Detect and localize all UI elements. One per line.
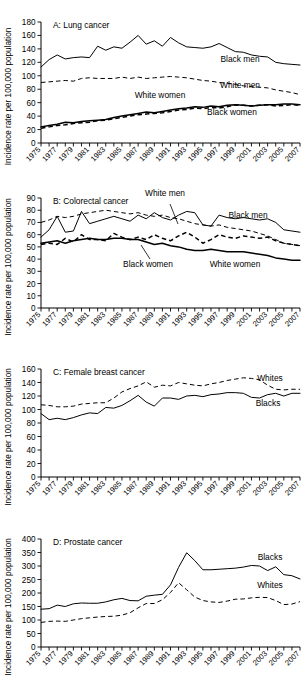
x-tick-label: 1975 [24,145,42,163]
x-tick-label: 1977 [40,649,58,667]
x-tick-label: 1991 [154,145,172,163]
leader-line [170,204,178,224]
incidence-rate-figure: 0204060801001201401601801975197719791981… [0,0,307,685]
x-tick-label: 2007 [283,310,301,328]
x-tick-label: 1979 [56,145,74,163]
x-tick-label: 1985 [105,479,123,497]
x-tick-label: 1993 [170,479,188,497]
x-tick-label: 1995 [186,310,204,328]
x-tick-label: 2001 [235,649,253,667]
x-tick-label: 1999 [218,145,236,163]
x-tick-label: 1997 [202,310,220,328]
x-tick-label: 1995 [186,479,204,497]
x-tick-label: 2007 [283,145,301,163]
y-axis-label: Incidence rate per 100,000 population [4,198,13,336]
x-tick-label: 2003 [251,479,269,497]
x-tick-label: 2005 [267,145,285,163]
series-label-white-men: White men [145,188,185,198]
y-tick-label: 140 [22,45,36,54]
y-tick-label: 80 [26,85,36,94]
y-tick-label: 400 [22,535,36,544]
x-tick-label: 1997 [202,649,220,667]
chart-a: 0204060801001201401601801975197719791981… [0,0,307,175]
series-label-white-women: White women [135,90,186,100]
y-tick-label: 160 [22,31,36,40]
y-tick-label: 40 [26,446,36,455]
x-tick-label: 2003 [251,310,269,328]
x-tick-label: 1979 [56,479,74,497]
x-tick-label: 2005 [267,479,285,497]
x-tick-label: 2005 [267,310,285,328]
y-tick-label: 140 [22,379,36,388]
series-label-black-men: Black men [228,210,267,220]
panel-lung-cancer: 0204060801001201401601801975197719791981… [0,0,307,175]
x-tick-label: 2005 [267,649,285,667]
y-tick-label: 250 [22,576,36,585]
y-tick-label: 40 [26,112,36,121]
y-tick-label: 180 [22,18,36,27]
series-line-white-women [41,238,300,260]
y-tick-label: 20 [26,460,36,469]
series-label-whites: Whites [257,580,283,590]
x-tick-label: 1987 [121,145,139,163]
y-tick-label: 100 [22,616,36,625]
x-tick-label: 2001 [235,145,253,163]
x-tick-label: 2003 [251,649,269,667]
x-tick-label: 1995 [186,649,204,667]
panel-title: C: Female breast cancer [53,367,145,377]
x-tick-label: 1979 [56,649,74,667]
y-tick-label: 200 [22,589,36,598]
series-label-blacks: Blacks [258,552,283,562]
y-tick-label: 300 [22,562,36,571]
x-tick-label: 2001 [235,479,253,497]
series-label-whites: Whites [257,373,283,383]
y-tick-label: 50 [26,630,36,639]
y-tick-label: 70 [26,218,36,227]
y-axis-label: Incidence rate per 100,000 population [4,538,13,676]
panel-title: D: Prostate cancer [53,537,123,547]
y-tick-label: 40 [26,255,36,264]
x-tick-label: 2001 [235,310,253,328]
x-tick-label: 1991 [154,479,172,497]
panel-title: B: Colorectal cancer [53,196,129,206]
y-tick-label: 60 [26,99,36,108]
series-line-black-women [41,105,300,129]
x-tick-label: 1981 [73,145,91,163]
x-tick-label: 2007 [283,649,301,667]
y-tick-label: 100 [22,72,36,81]
series-label-white-men: White men [220,80,260,90]
x-tick-label: 1985 [105,145,123,163]
series-label-black-men: Black men [220,54,259,64]
x-tick-label: 1975 [24,479,42,497]
x-tick-label: 1981 [73,649,91,667]
y-tick-label: 350 [22,549,36,558]
x-tick-label: 1985 [105,649,123,667]
series-line-black-men [41,35,300,67]
x-tick-label: 1987 [121,649,139,667]
panel-colorectal-cancer: 0102030405060708090197519771979198119831… [0,170,307,345]
y-tick-label: 10 [26,292,36,301]
y-tick-label: 20 [26,280,36,289]
y-tick-label: 30 [26,267,36,276]
x-tick-label: 1989 [137,649,155,667]
series-label-blacks: Blacks [256,398,281,408]
x-tick-label: 1993 [170,649,188,667]
y-tick-label: 100 [22,406,36,415]
chart-d: 0501001502002503003504001975197719791981… [0,510,307,685]
chart-c: 0204060801001201401601975197719791981198… [0,340,307,515]
x-tick-label: 1977 [40,310,58,328]
x-tick-label: 1997 [202,479,220,497]
x-tick-label: 2003 [251,145,269,163]
leader-line [141,245,150,259]
x-tick-label: 1981 [73,310,91,328]
x-tick-label: 1985 [105,310,123,328]
x-tick-label: 1983 [89,145,107,163]
x-tick-label: 1997 [202,145,220,163]
x-tick-label: 1977 [40,145,58,163]
x-tick-label: 1975 [24,649,42,667]
y-tick-label: 120 [22,392,36,401]
x-tick-label: 2007 [283,479,301,497]
panel-prostate-cancer: 0501001502002503003504001975197719791981… [0,510,307,685]
y-tick-label: 120 [22,58,36,67]
x-tick-label: 1999 [218,310,236,328]
